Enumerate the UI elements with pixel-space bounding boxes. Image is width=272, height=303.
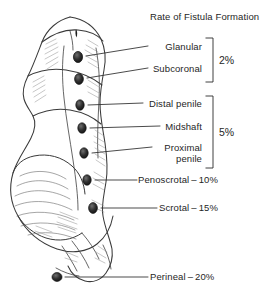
marker-perineal xyxy=(52,273,62,282)
leader-distal-penile xyxy=(88,103,143,105)
label-glanular: Glanular xyxy=(144,41,202,52)
label-penoscrotal: Penoscrotal – 10% xyxy=(138,174,218,185)
bracket-2-percent xyxy=(206,38,213,82)
figure-canvas: Rate of Fistula Formation Glanular Subco… xyxy=(0,0,272,303)
scrotal-rugae xyxy=(15,171,76,239)
marker-penoscrotal xyxy=(83,175,91,185)
rate-2-percent: 2% xyxy=(219,54,234,66)
marker-midshaft xyxy=(78,123,86,133)
anatomical-illustration xyxy=(0,0,272,303)
label-scrotal: Scrotal – 15% xyxy=(159,202,218,213)
marker-proximal-penile xyxy=(80,148,88,158)
leader-proximal-penile xyxy=(92,147,152,153)
shading-hatching xyxy=(33,39,107,263)
label-proximal-penile-line1: Proximal xyxy=(146,142,202,153)
marker-scrotal xyxy=(89,203,98,214)
rate-5-percent: 5% xyxy=(219,126,234,138)
rate-brackets xyxy=(206,38,213,168)
label-proximal-penile-line2: penile xyxy=(146,153,202,164)
figure-title: Rate of Fistula Formation xyxy=(150,11,259,22)
marker-glanular xyxy=(73,51,82,62)
label-perineal: Perineal – 20% xyxy=(150,271,214,282)
leader-glanular xyxy=(86,46,148,56)
marker-distal-penile xyxy=(76,100,84,110)
label-subcoronal: Subcoronal xyxy=(136,63,202,74)
bracket-5-percent xyxy=(206,96,213,168)
label-distal-penile: Distal penile xyxy=(136,98,202,109)
scrotum-outline xyxy=(13,155,85,240)
marker-subcoronal xyxy=(75,74,84,85)
label-midshaft: Midshaft xyxy=(144,121,202,132)
